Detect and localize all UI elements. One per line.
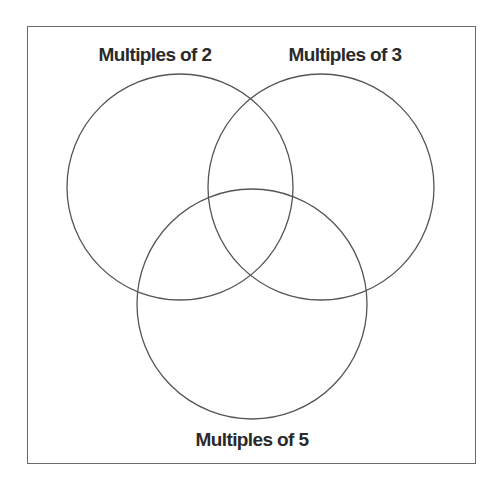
venn-diagram	[0, 0, 496, 486]
label-multiples-of-2: Multiples of 2	[99, 44, 212, 66]
label-multiples-of-3: Multiples of 3	[289, 44, 402, 66]
circle-multiples-of-5	[137, 189, 367, 419]
circle-multiples-of-3	[208, 74, 434, 300]
circle-multiples-of-2	[67, 74, 293, 300]
label-multiples-of-5: Multiples of 5	[196, 429, 309, 451]
